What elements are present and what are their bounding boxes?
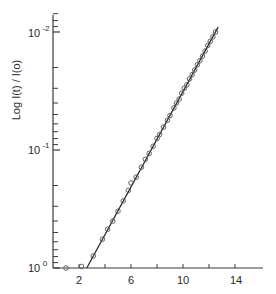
svg-text:0: 0: [43, 259, 48, 268]
svg-text:10: 10: [28, 27, 40, 39]
y-ticks: [53, 14, 60, 268]
x-tick-label-10: 10: [177, 274, 189, 286]
y-tick-label-minus1: 10 -1: [28, 141, 50, 156]
svg-text:10: 10: [28, 262, 40, 274]
y-tick-label-minus2: 10 -2: [28, 24, 50, 39]
svg-text:-2: -2: [42, 24, 50, 33]
chart: 2 6 10 14 10 0 10 -1 10 -2 Log I(t) / I(…: [0, 0, 276, 294]
svg-text:-1: -1: [42, 141, 50, 150]
y-tick-label-0: 10 0: [28, 259, 48, 274]
svg-text:10: 10: [28, 144, 40, 156]
y-axis-title: Log I(t) / I(o): [10, 60, 22, 121]
data-points: [64, 30, 218, 271]
x-tick-label-6: 6: [128, 274, 134, 286]
x-tick-label-14: 14: [230, 274, 242, 286]
x-tick-label-2: 2: [76, 274, 82, 286]
